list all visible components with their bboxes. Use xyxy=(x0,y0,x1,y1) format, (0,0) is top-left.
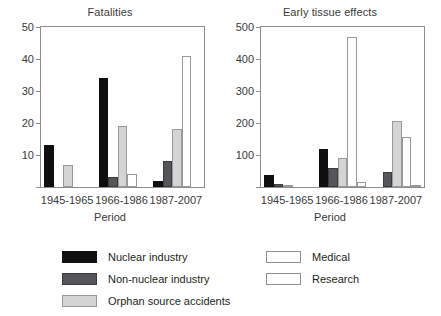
y-axis-label: 500 xyxy=(236,21,254,33)
bar xyxy=(402,137,412,187)
x-axis-title: Period xyxy=(0,211,220,223)
y-axis-tick xyxy=(36,59,41,60)
legend-swatch-icon xyxy=(62,273,97,285)
legend-swatch-icon xyxy=(62,295,97,307)
plot-area: 100200300400500 xyxy=(260,26,425,188)
x-axis-category-label: 1945-1965 xyxy=(41,194,94,206)
y-axis-label: 300 xyxy=(236,85,254,97)
legend-column-b: MedicalResearch xyxy=(266,246,359,290)
x-axis-category-label: 1987-2007 xyxy=(370,194,423,206)
bar xyxy=(328,168,338,187)
y-axis-label: 40 xyxy=(22,53,34,65)
legend-item: Research xyxy=(266,268,359,290)
bar xyxy=(118,126,128,187)
bar xyxy=(108,177,118,187)
legend-item: Non-nuclear industry xyxy=(62,268,230,290)
x-axis-category-label: 1945-1965 xyxy=(261,194,314,206)
bar xyxy=(357,182,367,187)
legend-item-label: Orphan source accidents xyxy=(108,295,230,307)
y-axis-tick xyxy=(36,123,41,124)
bar xyxy=(153,181,163,187)
y-axis-label: 10 xyxy=(22,149,34,161)
legend-column-a: Nuclear industryNon-nuclear industryOrph… xyxy=(62,246,230,312)
y-axis-tick xyxy=(36,155,41,156)
legend-item: Medical xyxy=(266,246,359,268)
chart-title: Fatalities xyxy=(0,6,220,18)
legend: Nuclear industryNon-nuclear industryOrph… xyxy=(0,246,441,316)
bar xyxy=(182,56,192,187)
legend-item-label: Medical xyxy=(312,251,350,263)
bar xyxy=(264,175,274,187)
bar xyxy=(319,149,329,187)
plot-area: 1020304050 xyxy=(40,26,205,188)
y-axis-tick xyxy=(36,91,41,92)
y-axis-label: 30 xyxy=(22,85,34,97)
legend-item: Nuclear industry xyxy=(62,246,230,268)
chart-panel-early-tissue-effects: Early tissue effects 100200300400500 Per… xyxy=(220,0,440,240)
x-axis-category-label: 1966-1986 xyxy=(315,194,368,206)
bar xyxy=(163,161,173,187)
y-axis-tick xyxy=(256,59,261,60)
legend-item-label: Research xyxy=(312,273,359,285)
legend-swatch-icon xyxy=(266,273,301,285)
x-axis-category-label: 1966-1986 xyxy=(95,194,148,206)
y-axis-tick xyxy=(256,91,261,92)
legend-swatch-icon xyxy=(266,251,301,263)
x-axis-title: Period xyxy=(220,211,440,223)
chart-title: Early tissue effects xyxy=(220,6,440,18)
x-axis-category-label: 1987-2007 xyxy=(150,194,203,206)
figure: Fatalities 1020304050 Period 1945-196519… xyxy=(0,0,441,316)
y-axis-tick xyxy=(256,187,261,188)
y-axis-label: 100 xyxy=(236,149,254,161)
bar xyxy=(63,165,73,187)
chart-panel-fatalities: Fatalities 1020304050 Period 1945-196519… xyxy=(0,0,220,240)
y-axis-tick xyxy=(256,155,261,156)
bar xyxy=(383,172,393,187)
legend-swatch-icon xyxy=(62,251,97,263)
bar xyxy=(338,158,348,187)
bar xyxy=(347,37,357,187)
y-axis-tick xyxy=(36,187,41,188)
y-axis-tick xyxy=(256,27,261,28)
bar xyxy=(392,121,402,187)
y-axis-label: 20 xyxy=(22,117,34,129)
y-axis-label: 200 xyxy=(236,117,254,129)
y-axis-label: 50 xyxy=(22,21,34,33)
legend-item: Orphan source accidents xyxy=(62,290,230,312)
bar xyxy=(283,185,293,187)
bar xyxy=(44,145,54,187)
bar xyxy=(274,184,284,187)
legend-item-label: Non-nuclear industry xyxy=(108,273,210,285)
legend-item-label: Nuclear industry xyxy=(108,251,187,263)
y-axis-label: 400 xyxy=(236,53,254,65)
bar xyxy=(411,185,421,187)
bar xyxy=(172,129,182,187)
bar xyxy=(127,174,137,187)
bar xyxy=(99,78,109,187)
y-axis-tick xyxy=(256,123,261,124)
y-axis-tick xyxy=(36,27,41,28)
